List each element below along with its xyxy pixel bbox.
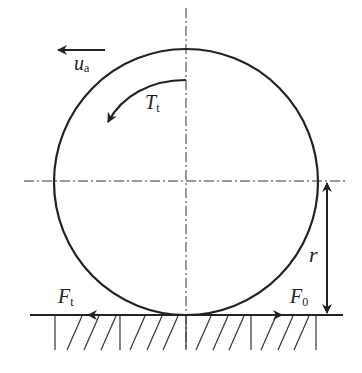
- torque-label: Tt: [145, 91, 160, 115]
- wheel-diagram: ua Tt Ft F0 r: [0, 0, 362, 373]
- velocity-label: ua: [74, 52, 90, 75]
- traction-force-label: Ft: [57, 285, 74, 309]
- radius-label: r: [309, 242, 318, 267]
- rolling-force-label: F0: [289, 285, 308, 309]
- ground-hatching: [55, 316, 316, 350]
